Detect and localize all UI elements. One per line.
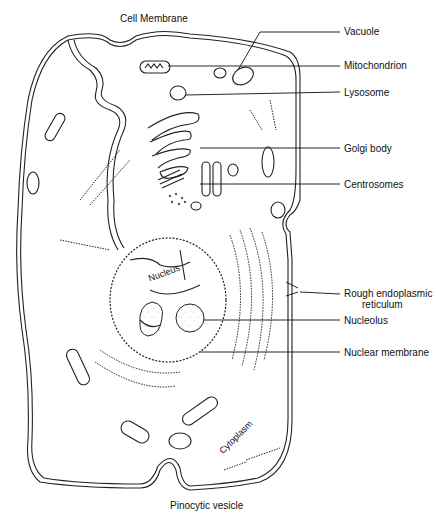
- label-lysosome: Lysosome: [344, 87, 389, 98]
- label-rough-er-2: reticulum: [362, 299, 403, 310]
- cell-diagram: [0, 0, 436, 517]
- label-golgi-body: Golgi body: [344, 143, 392, 154]
- label-vacuole: Vacuole: [344, 26, 379, 37]
- label-mitochondrion: Mitochondrion: [344, 60, 407, 71]
- label-nucleolus: Nucleolus: [344, 315, 388, 326]
- lysosome: [170, 86, 186, 100]
- label-nuclear-membrane: Nuclear membrane: [344, 347, 429, 358]
- nucleus: [110, 238, 226, 362]
- vacuole: [229, 64, 256, 89]
- label-pinocytic-vesicle: Pinocytic vesicle: [170, 500, 243, 511]
- label-cell-membrane: Cell Membrane: [120, 13, 188, 24]
- label-centrosomes: Centrosomes: [344, 179, 403, 190]
- golgi-body: [148, 113, 199, 179]
- label-rough-er-1: Rough endoplasmic: [344, 288, 432, 299]
- vesicles: [27, 68, 285, 218]
